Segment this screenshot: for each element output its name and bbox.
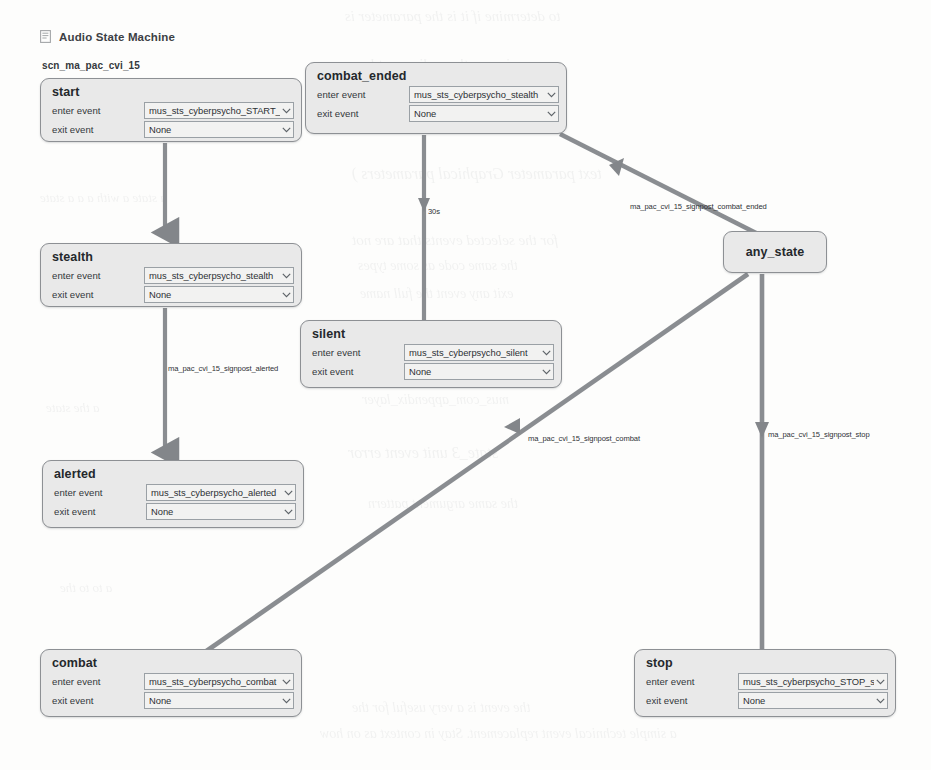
- enter-event-select[interactable]: mus_sts_cyberpsycho_silent: [404, 344, 554, 361]
- exit-event-select[interactable]: None: [144, 692, 294, 709]
- chevron-down-icon[interactable]: [280, 287, 293, 302]
- exit-event-row: exit eventNone: [646, 692, 888, 709]
- state-node-stealth[interactable]: stealthenter eventmus_sts_cyberpsycho_st…: [40, 243, 302, 307]
- enter-event-row: enter eventmus_sts_cyberpsycho_silent: [312, 344, 554, 361]
- chevron-down-icon[interactable]: [282, 485, 295, 500]
- enter-event-value: mus_sts_cyberpsycho_silent: [405, 347, 540, 358]
- chevron-down-icon[interactable]: [280, 268, 293, 283]
- exit-event-select[interactable]: None: [404, 363, 554, 380]
- enter-event-label: enter event: [312, 347, 404, 358]
- exit-event-label: exit event: [312, 366, 404, 377]
- state-machine-canvas: Audio State Machine scn_ma_pac_cvi_15 st…: [0, 0, 931, 770]
- exit-event-row: exit eventNone: [54, 503, 296, 520]
- exit-event-value: None: [145, 695, 280, 706]
- edge-label-stealth-to-alerted: ma_pac_cvi_15_signpost_alerted: [168, 364, 278, 373]
- enter-event-select[interactable]: mus_sts_cyberpsycho_STOP_sl: [738, 673, 888, 690]
- state-node-fields: enter eventmus_sts_cyberpsycho_START_sie…: [41, 102, 301, 147]
- edge-label-combat_ended-to-silent: 30s: [428, 207, 440, 216]
- exit-event-label: exit event: [646, 695, 738, 706]
- exit-event-select[interactable]: None: [144, 286, 294, 303]
- enter-event-label: enter event: [54, 487, 146, 498]
- state-node-silent[interactable]: silententer eventmus_sts_cyberpsycho_sil…: [300, 320, 562, 388]
- state-node-fields: enter eventmus_sts_cyberpsycho_alertedex…: [43, 484, 303, 529]
- state-node-fields: enter eventmus_sts_cyberpsycho_STOP_slex…: [635, 673, 895, 718]
- state-node-any_state[interactable]: any_state: [723, 231, 827, 273]
- chevron-down-icon[interactable]: [540, 364, 553, 379]
- exit-event-value: None: [739, 695, 874, 706]
- exit-event-row: exit eventNone: [312, 363, 554, 380]
- exit-event-row: exit eventNone: [52, 692, 294, 709]
- chevron-down-icon[interactable]: [540, 345, 553, 360]
- exit-event-select[interactable]: None: [409, 105, 559, 122]
- state-node-stop[interactable]: stopenter eventmus_sts_cyberpsycho_STOP_…: [634, 649, 896, 717]
- exit-event-label: exit event: [54, 506, 146, 517]
- enter-event-row: enter eventmus_sts_cyberpsycho_alerted: [54, 484, 296, 501]
- edge-label-any_state-to-combat: ma_pac_cvi_15_signpost_combat: [528, 434, 640, 443]
- enter-event-value: mus_sts_cyberpsycho_stealth: [410, 89, 545, 100]
- exit-event-select[interactable]: None: [144, 121, 294, 138]
- enter-event-select[interactable]: mus_sts_cyberpsycho_alerted: [146, 484, 296, 501]
- chevron-down-icon[interactable]: [280, 103, 293, 118]
- state-node-fields: enter eventmus_sts_cyberpsycho_stealthex…: [41, 267, 301, 312]
- document-state-machine-icon: [40, 30, 51, 43]
- state-node-combat[interactable]: combatenter eventmus_sts_cyberpsycho_com…: [40, 649, 302, 717]
- exit-event-row: exit eventNone: [52, 286, 294, 303]
- document-title: Audio State Machine: [59, 31, 175, 43]
- chevron-down-icon[interactable]: [282, 504, 295, 519]
- exit-event-value: None: [405, 366, 540, 377]
- chevron-down-icon[interactable]: [545, 106, 558, 121]
- chevron-down-icon[interactable]: [874, 674, 887, 689]
- state-node-alerted[interactable]: alertedenter eventmus_sts_cyberpsycho_al…: [42, 460, 304, 528]
- state-node-fields: enter eventmus_sts_cyberpsycho_combatexi…: [41, 673, 301, 718]
- exit-event-value: None: [147, 506, 282, 517]
- exit-event-value: None: [410, 108, 545, 119]
- enter-event-label: enter event: [52, 270, 144, 281]
- enter-event-select[interactable]: mus_sts_cyberpsycho_START_si: [144, 102, 294, 119]
- exit-event-value: None: [145, 289, 280, 300]
- enter-event-select[interactable]: mus_sts_cyberpsycho_combat: [144, 673, 294, 690]
- edge-label-any_state-to-stop: ma_pac_cvi_15_signpost_stop: [768, 430, 870, 439]
- chevron-down-icon[interactable]: [280, 674, 293, 689]
- state-node-fields: enter eventmus_sts_cyberpsycho_stealthex…: [306, 86, 566, 131]
- enter-event-row: enter eventmus_sts_cyberpsycho_stealth: [317, 86, 559, 103]
- exit-event-row: exit eventNone: [317, 105, 559, 122]
- enter-event-row: enter eventmus_sts_cyberpsycho_STOP_sl: [646, 673, 888, 690]
- enter-event-row: enter eventmus_sts_cyberpsycho_stealth: [52, 267, 294, 284]
- enter-event-select[interactable]: mus_sts_cyberpsycho_stealth: [144, 267, 294, 284]
- document-header: Audio State Machine: [40, 30, 175, 43]
- chevron-down-icon[interactable]: [874, 693, 887, 708]
- enter-event-value: mus_sts_cyberpsycho_START_si: [145, 105, 280, 116]
- state-node-start[interactable]: startenter eventmus_sts_cyberpsycho_STAR…: [40, 78, 302, 142]
- enter-event-value: mus_sts_cyberpsycho_combat: [145, 676, 280, 687]
- exit-event-select[interactable]: None: [738, 692, 888, 709]
- edge-label-combat_ended-to-any_state: ma_pac_cvi_15_signpost_combat_ended: [630, 202, 767, 211]
- exit-event-label: exit event: [52, 289, 144, 300]
- state-node-title: any_state: [746, 245, 805, 259]
- state-node-title: combat: [41, 650, 301, 673]
- enter-event-label: enter event: [52, 676, 144, 687]
- enter-event-label: enter event: [317, 89, 409, 100]
- chevron-down-icon[interactable]: [280, 122, 293, 137]
- state-node-title: combat_ended: [306, 63, 566, 86]
- enter-event-label: enter event: [52, 105, 144, 116]
- state-node-title: alerted: [43, 461, 303, 484]
- enter-event-select[interactable]: mus_sts_cyberpsycho_stealth: [409, 86, 559, 103]
- exit-event-label: exit event: [52, 695, 144, 706]
- state-node-combat_ended[interactable]: combat_endedenter eventmus_sts_cyberpsyc…: [305, 62, 567, 134]
- enter-event-value: mus_sts_cyberpsycho_STOP_sl: [739, 676, 874, 687]
- enter-event-value: mus_sts_cyberpsycho_alerted: [147, 487, 282, 498]
- state-node-title: start: [41, 79, 301, 102]
- exit-event-row: exit eventNone: [52, 121, 294, 138]
- exit-event-label: exit event: [52, 124, 144, 135]
- exit-event-value: None: [145, 124, 280, 135]
- exit-event-select[interactable]: None: [146, 503, 296, 520]
- exit-event-label: exit event: [317, 108, 409, 119]
- enter-event-label: enter event: [646, 676, 738, 687]
- enter-event-value: mus_sts_cyberpsycho_stealth: [145, 270, 280, 281]
- graph-name: scn_ma_pac_cvi_15: [42, 60, 140, 71]
- enter-event-row: enter eventmus_sts_cyberpsycho_START_si: [52, 102, 294, 119]
- state-node-title: silent: [301, 321, 561, 344]
- chevron-down-icon[interactable]: [280, 693, 293, 708]
- chevron-down-icon[interactable]: [545, 87, 558, 102]
- state-node-title: stealth: [41, 244, 301, 267]
